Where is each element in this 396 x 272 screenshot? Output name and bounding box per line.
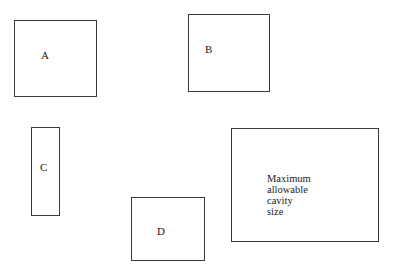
cavity-label-c: C: [40, 162, 47, 173]
cavity-box-b: [188, 14, 270, 92]
max-cavity-line-4: size: [267, 206, 311, 217]
cavity-box-a: [14, 20, 97, 97]
max-cavity-label: Maximum allowable cavity size: [267, 173, 311, 217]
cavity-label-a: A: [41, 50, 49, 61]
cavity-label-b: B: [205, 44, 212, 55]
max-cavity-line-3: cavity: [267, 195, 311, 206]
max-cavity-line-1: Maximum: [267, 173, 311, 184]
max-cavity-line-2: allowable: [267, 184, 311, 195]
cavity-label-d: D: [157, 226, 165, 237]
cavity-box-d: [131, 197, 205, 261]
